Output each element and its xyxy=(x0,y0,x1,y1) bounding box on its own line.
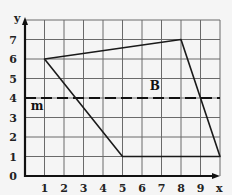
y-tick-label: 2 xyxy=(9,131,17,144)
x-tick-label: 2 xyxy=(60,182,68,195)
x-tick-label: 5 xyxy=(119,182,127,195)
y-tick-labels: 01234567 xyxy=(9,34,17,184)
y-tick-label: 0 xyxy=(9,170,17,183)
y-axis-arrow-icon xyxy=(22,17,28,25)
x-axis-arrow-icon xyxy=(212,173,220,179)
x-tick-label: 3 xyxy=(80,182,88,195)
x-tick-labels: 123456789 xyxy=(41,182,205,195)
y-tick-label: 6 xyxy=(9,53,17,66)
y-tick-label: 4 xyxy=(9,92,17,105)
x-tick-label: 9 xyxy=(197,182,205,195)
x-tick-label: 8 xyxy=(177,182,185,195)
y-axis-label: y xyxy=(13,12,21,25)
x-tick-label: 4 xyxy=(99,182,107,195)
y-tick-label: 5 xyxy=(9,73,17,86)
x-tick-label: 7 xyxy=(158,182,166,195)
y-tick-label: 7 xyxy=(9,34,17,47)
x-tick-label: 6 xyxy=(138,182,146,195)
line-m-label: m xyxy=(31,99,44,113)
y-tick-label: 1 xyxy=(9,151,17,164)
y-tick-label: 3 xyxy=(9,112,17,125)
coordinate-diagram: x y 123456789 01234567 m B xyxy=(0,0,232,195)
x-axis-label: x xyxy=(216,182,223,195)
x-tick-label: 1 xyxy=(41,182,49,195)
region-b-label: B xyxy=(150,79,160,93)
